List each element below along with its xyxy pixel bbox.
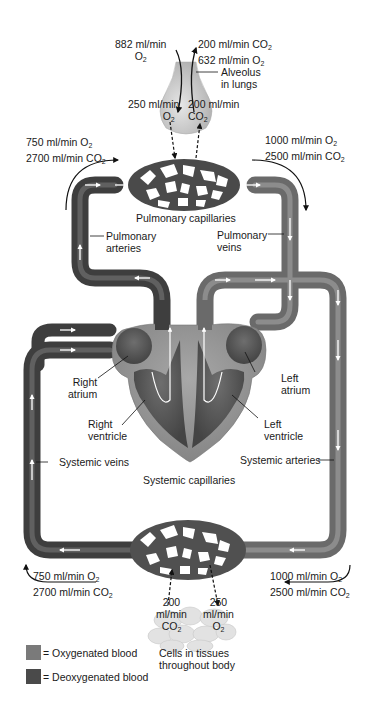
legend-oxygenated: = Oxygenated blood <box>26 645 137 660</box>
tissue-co2-label: 200 ml/min CO2 <box>156 596 187 636</box>
left-atrium-label: Left atrium <box>281 372 310 396</box>
pulmonary-arteries-label: Pulmonary arteries <box>106 230 156 254</box>
pulmonary-artery <box>80 185 162 330</box>
oxygenated-swatch <box>26 645 41 660</box>
alveolus-o2-in-label: 882 ml/min O2 <box>115 38 166 66</box>
left-atrium <box>226 326 262 364</box>
left-ventricle-label: Left ventricle <box>264 418 303 442</box>
pulmonary-out-label: 1000 ml/min O2 2500 ml/min CO2 <box>265 134 345 166</box>
right-ventricle-label: Right ventricle <box>88 418 127 442</box>
tissue-cells-label: Cells in tissues throughout body <box>159 647 235 671</box>
pulmonary-capillaries-label: Pulmonary capillaries <box>136 212 236 224</box>
systemic-capillaries-label: Systemic capillaries <box>143 474 235 486</box>
systemic-out-label: 750 ml/min O2 2700 ml/min CO2 <box>33 570 113 602</box>
alveolus-co2-up-label: 200 ml/min CO2 <box>188 98 239 126</box>
heart <box>112 300 266 462</box>
systemic-arteries-label: Systemic arteries <box>240 454 321 466</box>
pulmonary-veins-label: Pulmonary veins <box>217 229 267 253</box>
pulmonary-in-label: 750 ml/min O2 2700 ml/min CO2 <box>26 136 106 168</box>
right-atrium <box>116 328 152 364</box>
alveolus-o2-down-label: 250 ml/min O2 <box>128 98 179 126</box>
systemic-veins-label: Systemic veins <box>59 456 129 468</box>
pulmonary-vein <box>255 185 290 322</box>
tissue-o2-label: 250 ml/min O2 <box>203 596 234 636</box>
systemic-capillary-bed <box>130 520 246 580</box>
pulmonary-capillary-bed <box>128 159 240 211</box>
right-atrium-label: Right atrium <box>68 376 97 400</box>
legend-deoxygenated: = Deoxygenated blood <box>26 669 148 684</box>
systemic-in-label: 1000 ml/min O2 2500 ml/min CO2 <box>270 570 350 602</box>
deoxygenated-swatch <box>26 669 41 684</box>
alveolus-label: Alveolus in lungs <box>221 66 261 90</box>
